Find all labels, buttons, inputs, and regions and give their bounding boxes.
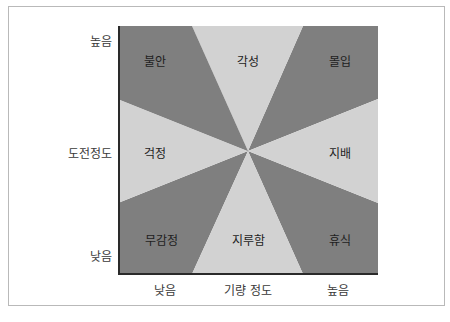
- y-axis-line: [118, 26, 120, 274]
- label-control: 지배: [329, 148, 351, 160]
- label-flow: 몰입: [329, 56, 351, 68]
- label-relaxation: 휴식: [329, 235, 351, 247]
- label-arousal: 각성: [237, 56, 259, 68]
- y-axis-title: 도전정도: [68, 148, 112, 160]
- x-axis-high-label: 높음: [327, 285, 349, 297]
- x-axis-low-label: 낮음: [154, 285, 176, 297]
- x-axis-title: 기량 정도: [224, 285, 272, 297]
- label-anxiety: 불안: [144, 56, 166, 68]
- label-apathy: 무감정: [145, 235, 178, 247]
- x-axis-line: [118, 273, 378, 275]
- y-axis-high-label: 높음: [90, 36, 112, 48]
- y-axis-low-label: 낮음: [90, 251, 112, 263]
- label-worry: 걱정: [144, 148, 166, 160]
- label-boredom: 지루함: [232, 235, 265, 247]
